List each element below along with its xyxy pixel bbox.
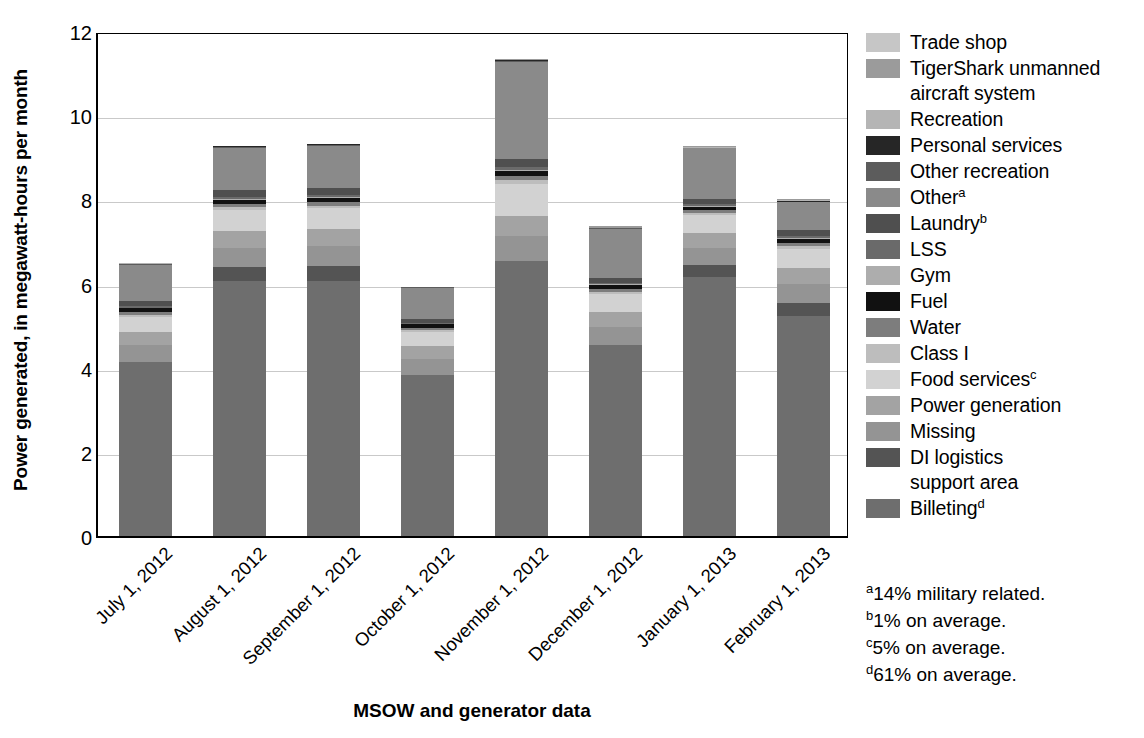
legend-item[interactable]: Class I [866, 341, 1144, 366]
footnote-marker: a [866, 581, 873, 596]
legend-item[interactable]: Recreation [866, 107, 1144, 132]
bar-segment[interactable] [213, 210, 266, 231]
bars-container [98, 34, 847, 536]
legend-swatch [866, 162, 900, 181]
legend-item[interactable]: Personal services [866, 133, 1144, 158]
legend-item[interactable]: Othera [866, 185, 1144, 210]
bar-segment[interactable] [307, 146, 360, 189]
bar-segment[interactable] [213, 231, 266, 248]
bar-segment[interactable] [307, 246, 360, 266]
legend-swatch [866, 499, 900, 518]
bar-segment[interactable] [307, 281, 360, 536]
legend-swatch [866, 344, 900, 363]
bar-segment[interactable] [777, 249, 830, 269]
bar-segment[interactable] [777, 316, 830, 536]
bar-segment[interactable] [777, 284, 830, 303]
bar-segment[interactable] [119, 332, 172, 345]
legend-swatch [866, 59, 900, 78]
legend-swatch [866, 188, 900, 207]
bar-segment[interactable] [401, 288, 454, 319]
legend-item[interactable]: DI logisticssupport area [866, 445, 1144, 495]
stacked-bar[interactable] [307, 143, 360, 536]
legend-item[interactable]: Food servicesc [866, 367, 1144, 392]
bar-segment[interactable] [213, 190, 266, 197]
legend-item-label: Personal services [910, 133, 1062, 158]
legend-footnote-marker: b [980, 211, 987, 226]
footnote-marker: b [866, 608, 873, 623]
legend-swatch [866, 448, 900, 467]
legend-item[interactable]: Other recreation [866, 159, 1144, 184]
legend-item-label: Water [910, 315, 961, 340]
bar-segment[interactable] [213, 267, 266, 282]
bar-segment[interactable] [119, 362, 172, 536]
y-tick-label: 6 [46, 276, 92, 296]
bar-segment[interactable] [213, 248, 266, 267]
bar-segment[interactable] [495, 62, 548, 159]
footnotes: a14% military related.b1% on average.c5%… [866, 580, 1144, 688]
bar-segment[interactable] [119, 317, 172, 332]
legend-swatch [866, 33, 900, 52]
bar-segment[interactable] [495, 184, 548, 216]
plot-area [96, 33, 848, 538]
stacked-bar[interactable] [683, 146, 736, 536]
legend-item-label: Power generation [910, 393, 1061, 418]
legend-item[interactable]: Gym [866, 263, 1144, 288]
bar-segment[interactable] [683, 233, 736, 248]
footnote: c5% on average. [866, 634, 1144, 661]
legend-swatch [866, 422, 900, 441]
bar-segment[interactable] [495, 261, 548, 536]
legend-swatch [866, 396, 900, 415]
bar-segment[interactable] [495, 236, 548, 261]
bar-segment[interactable] [307, 266, 360, 282]
y-axis-title-text: Power generated, in megawatt-hours per m… [10, 69, 32, 491]
bar-segment[interactable] [119, 345, 172, 363]
legend-item[interactable]: Trade shop [866, 30, 1144, 55]
x-tick-label: August 1, 2012 [169, 544, 270, 645]
legend-item[interactable]: Missing [866, 419, 1144, 444]
stacked-bar[interactable] [401, 287, 454, 536]
bar-segment[interactable] [683, 248, 736, 265]
stacked-bar[interactable] [119, 263, 172, 536]
y-tick-label: 12 [46, 23, 92, 43]
bar-segment[interactable] [683, 265, 736, 278]
bar-segment[interactable] [307, 229, 360, 246]
bar-segment[interactable] [683, 277, 736, 536]
legend-item[interactable]: Billetingd [866, 496, 1144, 521]
bar-segment[interactable] [589, 229, 642, 278]
legend-item[interactable]: TigerShark unmannedaircraft system [866, 56, 1144, 106]
bar-segment[interactable] [589, 312, 642, 327]
legend-item[interactable]: Fuel [866, 289, 1144, 314]
stacked-bar[interactable] [589, 226, 642, 536]
legend-swatch [866, 318, 900, 337]
stacked-bar[interactable] [213, 145, 266, 536]
stacked-bar[interactable] [495, 59, 548, 536]
bar-segment[interactable] [495, 159, 548, 167]
bar-segment[interactable] [683, 215, 736, 233]
bar-segment[interactable] [401, 332, 454, 346]
stacked-bar[interactable] [777, 199, 830, 536]
x-axis-title: MSOW and generator data [96, 700, 848, 722]
bar-segment[interactable] [401, 346, 454, 359]
bar-segment[interactable] [589, 345, 642, 536]
bar-segment[interactable] [589, 327, 642, 345]
legend-item[interactable]: Power generation [866, 393, 1144, 418]
bar-segment[interactable] [777, 268, 830, 284]
bar-segment[interactable] [307, 208, 360, 229]
bar-segment[interactable] [777, 303, 830, 316]
bar-segment[interactable] [589, 294, 642, 313]
legend-swatch [866, 266, 900, 285]
bar-segment[interactable] [401, 359, 454, 375]
bar-segment[interactable] [307, 188, 360, 195]
bar-segment[interactable] [401, 375, 454, 536]
bar-segment[interactable] [213, 281, 266, 536]
legend-item-label: Recreation [910, 107, 1003, 132]
bar-segment[interactable] [777, 202, 830, 230]
legend-item[interactable]: LSS [866, 237, 1144, 262]
bar-segment[interactable] [495, 216, 548, 236]
y-axis-title: Power generated, in megawatt-hours per m… [0, 0, 42, 560]
bar-segment[interactable] [119, 265, 172, 301]
bar-segment[interactable] [213, 148, 266, 190]
bar-segment[interactable] [683, 148, 736, 199]
legend-item[interactable]: Water [866, 315, 1144, 340]
legend-item[interactable]: Laundryb [866, 211, 1144, 236]
